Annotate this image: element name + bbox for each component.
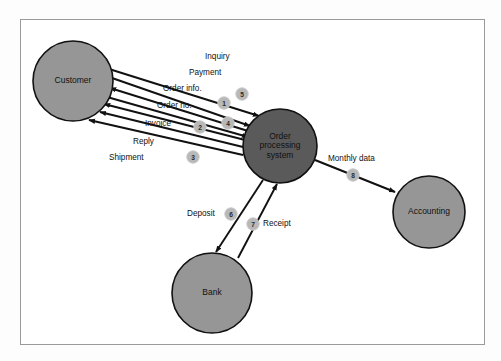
flow-label-inquiry: Inquiry <box>205 52 230 61</box>
node-label-order: system <box>267 150 294 160</box>
flow-label-invoice: Invoice <box>145 119 171 128</box>
badge-number-receipt: 7 <box>251 221 255 228</box>
flow-label-payment: Payment <box>189 68 222 77</box>
node-customer[interactable]: Customer <box>33 41 113 121</box>
badge-number-inquiry: 5 <box>240 91 244 98</box>
flow-label-order-no: Order no. <box>157 101 192 110</box>
flow-label-deposit: Deposit <box>187 209 215 218</box>
node-bank[interactable]: Bank <box>172 253 252 333</box>
node-label-customer: Customer <box>55 75 92 85</box>
flow-badge-inquiry: 5 <box>236 88 248 100</box>
badge-number-invoice: 2 <box>198 124 202 131</box>
flow-badge-shipment: 3 <box>187 151 199 163</box>
badge-number-shipment: 3 <box>191 154 195 161</box>
node-label-order: processing <box>259 140 300 150</box>
badge-number-order-info: 4 <box>226 120 230 127</box>
badge-number-monthly-data: 8 <box>351 172 355 179</box>
flow-edge-deposit <box>216 180 263 252</box>
flow-label-order-info: Order info. <box>163 84 202 93</box>
flow-badge-invoice: 2 <box>194 121 206 133</box>
node-label-order: Order <box>269 131 291 141</box>
data-flow-diagram: CustomerOrderprocessingsystemAccountingB… <box>0 0 501 361</box>
diagram-canvas: CustomerOrderprocessingsystemAccountingB… <box>0 0 501 361</box>
flow-badge-order-info: 4 <box>222 117 234 129</box>
badge-number-payment: 1 <box>222 100 226 107</box>
flow-badge-payment: 1 <box>218 97 230 109</box>
badge-number-deposit: 6 <box>229 211 233 218</box>
diagram-nodes: CustomerOrderprocessingsystemAccountingB… <box>33 41 465 333</box>
flow-badge-deposit: 6 <box>225 208 237 220</box>
flow-label-monthly-data: Monthly data <box>328 154 375 163</box>
node-accounting[interactable]: Accounting <box>393 176 465 248</box>
node-label-bank: Bank <box>202 287 222 297</box>
flow-label-shipment: Shipment <box>109 153 144 162</box>
flow-label-receipt: Receipt <box>263 219 291 228</box>
flow-badge-monthly-data: 8 <box>347 169 359 181</box>
node-order[interactable]: Orderprocessingsystem <box>243 109 317 183</box>
flow-badge-receipt: 7 <box>247 218 259 230</box>
node-label-accounting: Accounting <box>408 206 450 216</box>
flow-label-reply: Reply <box>133 137 155 146</box>
